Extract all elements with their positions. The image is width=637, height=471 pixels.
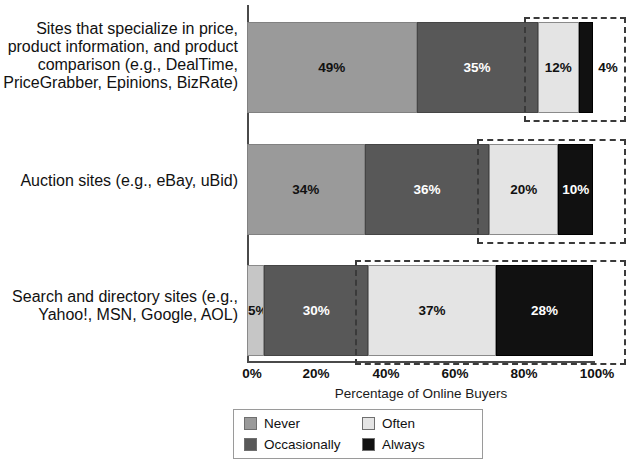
bar-segment-never: 49% [247, 22, 417, 113]
legend-item-always: Always [358, 437, 476, 452]
legend-item-never: Never [240, 416, 358, 431]
bar-segment-often: 37% [368, 265, 496, 356]
bar-segment-occasionally: 30% [264, 265, 368, 356]
x-tick-100: 100% [580, 366, 615, 381]
x-tick-60: 60% [441, 366, 468, 381]
bar-segment-always: 28% [496, 265, 593, 356]
bar-segment-often: 12% [538, 22, 580, 113]
legend-swatch-occasionally-icon [244, 438, 257, 451]
legend: Never Often Occasionally Always [233, 409, 483, 459]
plot-area: 49% 35% 12% 4% 34% 36% 20% 10% 5% 30% 37… [247, 5, 593, 362]
bar-segment-always-label: 4% [593, 22, 623, 113]
legend-label-always: Always [382, 437, 425, 452]
category-labels: Sites that specialize in price, product … [0, 0, 240, 471]
x-tick-80: 80% [510, 366, 537, 381]
legend-swatch-always-icon [362, 438, 375, 451]
x-tick-20: 20% [302, 366, 329, 381]
bar-row: 34% 36% 20% 10% [247, 144, 593, 235]
legend-item-occasionally: Occasionally [240, 437, 358, 452]
bar-segment-often: 20% [489, 144, 558, 235]
bar-segment-occasionally: 36% [365, 144, 490, 235]
bar-segment-never: 5% [247, 265, 264, 356]
legend-swatch-often-icon [362, 417, 375, 430]
category-label-price-comparison-sites: Sites that specialize in price, product … [0, 20, 238, 92]
x-axis-title: Percentage of Online Buyers [247, 386, 595, 401]
legend-swatch-never-icon [244, 417, 257, 430]
bar-row: 5% 30% 37% 28% [247, 265, 593, 356]
category-label-search-directory-sites: Search and directory sites (e.g., Yahoo!… [0, 288, 238, 324]
bar-segment-never: 34% [247, 144, 365, 235]
legend-label-occasionally: Occasionally [264, 437, 341, 452]
bar-segment-always [579, 22, 593, 113]
bar-row: 49% 35% 12% 4% [247, 22, 593, 113]
bar-segment-occasionally: 35% [417, 22, 538, 113]
legend-label-never: Never [264, 416, 300, 431]
stacked-bar-chart: Sites that specialize in price, product … [0, 0, 637, 471]
category-label-auction-sites: Auction sites (e.g., eBay, uBid) [0, 172, 238, 190]
x-tick-0: 0% [242, 366, 262, 381]
legend-label-often: Often [382, 416, 415, 431]
legend-item-often: Often [358, 416, 476, 431]
bar-segment-always: 10% [558, 144, 593, 235]
x-tick-40: 40% [372, 366, 399, 381]
